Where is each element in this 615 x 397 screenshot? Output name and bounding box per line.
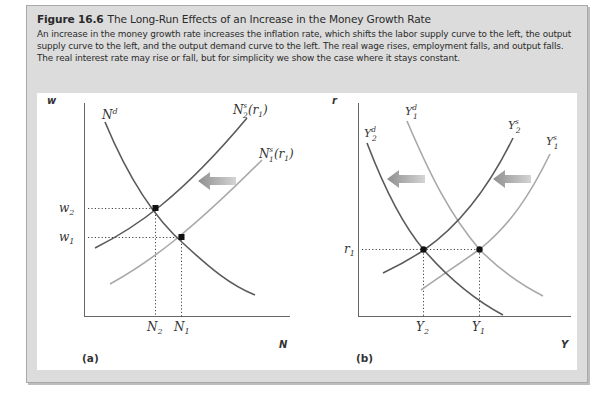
output-demand-new-label: Yd2 bbox=[364, 125, 377, 143]
labor-supply-initial-label: Ns1(r1) bbox=[258, 146, 294, 164]
panel-b-y-axis-label: r bbox=[332, 95, 338, 106]
tick-Y2: Y2 bbox=[416, 320, 429, 336]
labor-demand-label: Nd bbox=[101, 107, 118, 122]
output-demand-curve-initial bbox=[407, 121, 543, 296]
demand-left-shift-arrow-icon bbox=[387, 170, 425, 188]
tick-r1: r1 bbox=[344, 242, 355, 258]
equilibrium-point-new bbox=[420, 246, 426, 252]
output-demand-curve-new bbox=[367, 143, 503, 315]
output-supply-curve-initial bbox=[421, 154, 550, 290]
tick-w2: w2 bbox=[59, 201, 74, 217]
panel-a-label: (a) bbox=[82, 352, 99, 364]
tick-Y1: Y1 bbox=[472, 320, 485, 336]
labor-supply-new-label: Ns2(r1) bbox=[232, 102, 268, 120]
tick-w1: w1 bbox=[59, 230, 74, 246]
output-demand-initial-label: Yd1 bbox=[405, 103, 418, 121]
output-supply-new-label: Ys2 bbox=[508, 118, 521, 135]
tick-N2: N2 bbox=[146, 320, 163, 336]
panel-a-labor-market: w N (a) Nd Ns2(r1) Ns1(r1) w2 w1 N2 N1 bbox=[47, 95, 294, 364]
panel-a-y-axis-label: w bbox=[47, 95, 57, 106]
equilibrium-point-initial bbox=[179, 234, 185, 240]
panel-a-x-axis-label: N bbox=[279, 339, 288, 350]
left-shift-arrow-icon bbox=[198, 172, 236, 190]
panel-b-goods-market: r Y (b) Yd2 Yd1 Ys2 Ys1 r1 Y2 Y1 bbox=[332, 95, 571, 364]
equilibrium-point-new bbox=[153, 205, 159, 211]
labor-demand-curve bbox=[105, 122, 255, 295]
panel-b-guides bbox=[362, 250, 480, 317]
output-supply-initial-label: Ys1 bbox=[546, 134, 559, 151]
panel-b-label: (b) bbox=[356, 352, 373, 364]
supply-left-shift-arrow-icon bbox=[493, 170, 531, 188]
equilibrium-point-initial bbox=[476, 246, 482, 252]
panel-b-x-axis-label: Y bbox=[561, 339, 570, 350]
tick-N1: N1 bbox=[173, 320, 190, 336]
figure-charts: w N (a) Nd Ns2(r1) Ns1(r1) w2 w1 N2 N1 bbox=[0, 0, 615, 397]
